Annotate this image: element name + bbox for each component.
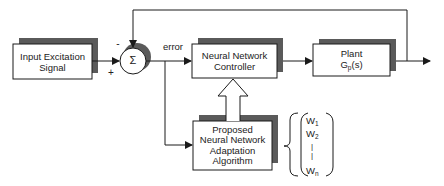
weights-curly-brace (284, 113, 298, 176)
adaptation-to-controller-arrow (218, 79, 248, 121)
input-box-line1: Input Excitation (20, 51, 85, 62)
weights-list: W1 W2 | | Wn (306, 116, 330, 179)
weight-wn: Wn (306, 166, 330, 179)
adaptation-line4: Algorithm (212, 156, 252, 167)
adaptation-line2: Neural Network (200, 135, 265, 146)
summer-symbol: Σ (126, 55, 140, 66)
plant-tf-main: G (340, 59, 347, 70)
error-branch-line (165, 61, 192, 145)
adaptation-box-label: Proposed Neural Network Adaptation Algor… (193, 121, 272, 170)
controller-box-label: Neural Network Controller (192, 44, 277, 78)
summer-minus-sign: - (114, 38, 122, 49)
controller-line2: Controller (214, 61, 255, 72)
plant-box-label: Plant Gp(s) (313, 44, 390, 76)
plant-transfer-function: Gp(s) (340, 59, 362, 73)
error-label: error (158, 41, 188, 52)
controller-line1: Neural Network (202, 50, 267, 61)
input-box-label: Input Excitation Signal (13, 44, 92, 79)
weight-ellipsis-2: | (306, 151, 330, 160)
plant-tf-tail: (s) (351, 59, 362, 70)
plant-line1: Plant (341, 48, 363, 59)
summer-plus-sign: + (107, 67, 115, 78)
weight-w2: W2 (306, 129, 330, 142)
weight-ellipsis-1: | (306, 142, 330, 151)
input-box-line2: Signal (39, 62, 65, 73)
